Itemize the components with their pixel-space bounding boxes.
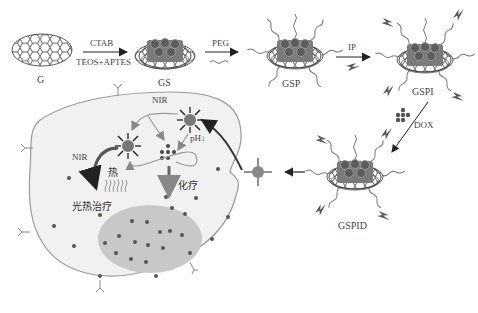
graphene-sheet-icon <box>12 34 72 66</box>
label-nir-left: NIR <box>72 152 88 162</box>
stage-label-gsp: GSP <box>282 78 300 89</box>
dox-molecule-icon <box>396 108 410 122</box>
intracellular-particle-left-icon <box>115 133 141 159</box>
label-photothermal-therapy: 光热治疗 <box>72 198 112 213</box>
reagent-dox: DOX <box>414 120 434 130</box>
stage-label-gs: GS <box>158 77 171 88</box>
reagent-ctab: CTAB <box>90 38 113 48</box>
entering-particle-icon <box>244 158 272 186</box>
cancer-cell <box>18 84 272 292</box>
reagent-teos-aptes: TEOS+APTES <box>76 57 131 67</box>
label-chemotherapy: 化疗 <box>178 177 198 192</box>
stage-label-g: G <box>37 74 44 85</box>
gsp-particle-icon <box>247 14 343 88</box>
label-nir-top: NIR <box>152 95 168 105</box>
gspid-particle-icon <box>305 126 405 224</box>
ip-molecule-icon <box>346 63 360 71</box>
label-ph-decrease: pH↓ <box>190 133 206 143</box>
stage-label-gspid: GSPID <box>338 220 367 231</box>
intracellular-particle-top-icon <box>177 107 203 133</box>
stage-label-gspi: GSPI <box>412 86 434 97</box>
reagent-peg: PEG <box>212 38 229 48</box>
label-heat: 热 <box>108 164 118 179</box>
gs-particle-icon <box>135 39 195 70</box>
peg-chain-icon <box>210 61 228 64</box>
reagent-ip: IP <box>348 42 356 52</box>
